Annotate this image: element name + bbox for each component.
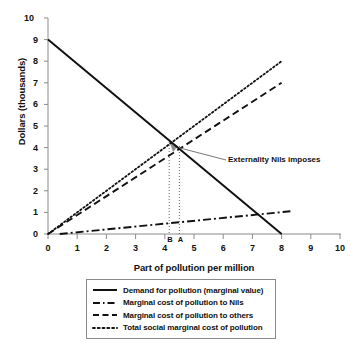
legend-key-dotted-line-icon [92, 323, 118, 333]
marked-point-label-a: A [174, 235, 188, 244]
legend-key-solid-line-icon [92, 285, 118, 295]
annotation-externality-nils-imposes: Externality Nils imposes [228, 155, 320, 164]
chart-legend: Demand for pollution (marginal value) Ma… [86, 279, 276, 339]
series-marginal-cost-nils [60, 211, 291, 234]
x-tick-label-0: 0 [38, 243, 58, 253]
y-tick-label-5: 5 [18, 121, 38, 131]
y-tick-label-10: 10 [14, 13, 34, 23]
y-tick-label-8: 8 [18, 56, 38, 66]
x-tick-label-8: 8 [272, 243, 292, 253]
legend-item-total-social-marginal-cost: Total social marginal cost of pollution [92, 322, 270, 335]
legend-label-total-social-marginal-cost: Total social marginal cost of pollution [123, 323, 263, 332]
x-tick-label-4: 4 [155, 243, 175, 253]
legend-key-dashed-line-icon [92, 310, 118, 320]
y-tick-label-6: 6 [18, 99, 38, 109]
y-tick-label-2: 2 [18, 186, 38, 196]
legend-item-marginal-cost-nils: Marginal cost of pollution to Nils [92, 297, 270, 310]
x-tick-label-1: 1 [67, 243, 87, 253]
legend-label-marginal-cost-nils: Marginal cost of pollution to Nils [123, 298, 244, 307]
y-tick-label-9: 9 [18, 35, 38, 45]
y-tick-label-4: 4 [18, 143, 38, 153]
legend-item-marginal-cost-others: Marginal cost of pollution to others [92, 309, 270, 322]
series-demand-for-pollution [48, 40, 282, 234]
x-tick-label-2: 2 [96, 243, 116, 253]
x-tick-label-9: 9 [301, 243, 321, 253]
y-tick-label-1: 1 [18, 207, 38, 217]
legend-label-marginal-cost-others: Marginal cost of pollution to others [123, 311, 253, 320]
x-tick-label-5: 5 [184, 243, 204, 253]
legend-key-dash-dot-line-icon [92, 298, 118, 308]
chart-figure: Dollars (thousands) Part of pollution pe… [0, 0, 358, 355]
x-tick-label-6: 6 [213, 243, 233, 253]
y-tick-label-3: 3 [18, 164, 38, 174]
y-tick-marks [44, 18, 48, 234]
legend-label-demand-for-pollution: Demand for pollution (marginal value) [123, 286, 263, 295]
x-tick-label-10: 10 [330, 243, 350, 253]
y-tick-label-0: 0 [18, 229, 38, 239]
y-tick-label-7: 7 [18, 78, 38, 88]
x-tick-label-7: 7 [242, 243, 262, 253]
series-total-social-marginal-cost [48, 61, 282, 234]
x-tick-label-3: 3 [126, 243, 146, 253]
x-axis-title: Part of pollution per million [48, 262, 340, 273]
legend-item-demand-for-pollution: Demand for pollution (marginal value) [92, 284, 270, 297]
x-tick-marks [48, 234, 340, 239]
